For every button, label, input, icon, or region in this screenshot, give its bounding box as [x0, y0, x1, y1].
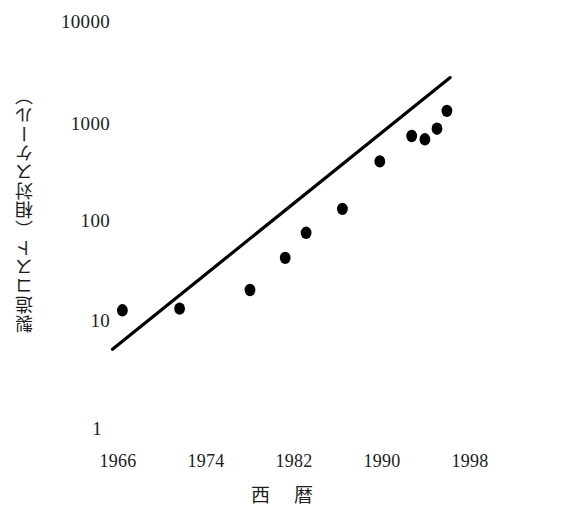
- chart-figure: 製造コスト（相対スケール） 10000 1000 100 10 1 1966 1…: [0, 0, 574, 531]
- data-point: [442, 105, 453, 117]
- data-point: [337, 203, 348, 215]
- data-point: [174, 302, 185, 314]
- data-point: [374, 155, 385, 167]
- data-point: [280, 252, 291, 264]
- data-point: [117, 304, 128, 316]
- data-point: [245, 284, 256, 296]
- plot-area: [0, 0, 574, 531]
- data-point: [432, 123, 443, 135]
- data-point: [301, 227, 312, 239]
- trend-line: [113, 78, 451, 350]
- data-point: [406, 130, 417, 142]
- data-point: [420, 133, 431, 145]
- fit-line: [113, 78, 451, 350]
